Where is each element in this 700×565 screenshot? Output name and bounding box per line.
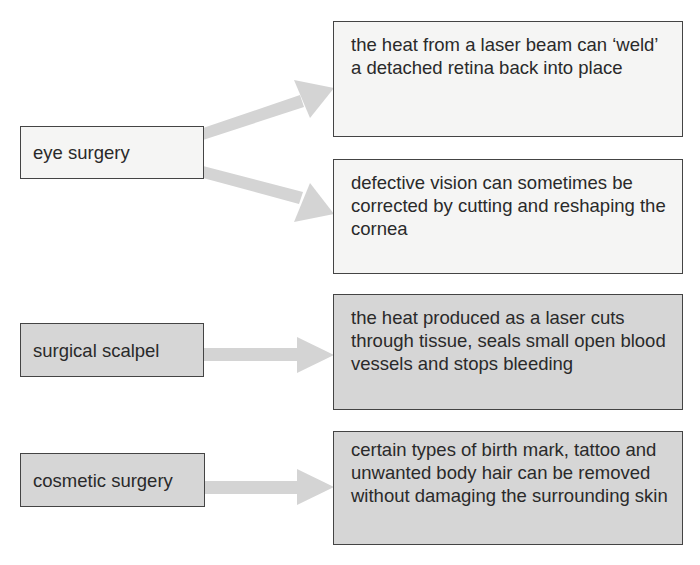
target-text: certain types of birth mark, tattoo and … [351,439,668,506]
source-label: eye surgery [33,141,130,164]
target-text: the heat produced as a laser cuts throug… [351,307,666,374]
target-box-retina: the heat from a laser beam can ‘weld’ a … [333,21,683,137]
source-label: surgical scalpel [33,339,159,362]
target-box-bleeding: the heat produced as a laser cuts throug… [333,294,683,410]
arrow-scalpel-to-bleeding [203,337,334,373]
target-box-cornea: defective vision can sometimes be correc… [333,159,683,274]
arrow-eye-surgery-to-retina [203,80,334,140]
target-text: defective vision can sometimes be correc… [351,172,666,239]
target-text: the heat from a laser beam can ‘weld’ a … [351,34,658,78]
source-box-surgical-scalpel: surgical scalpel [20,323,204,377]
target-box-skin: certain types of birth mark, tattoo and … [333,431,683,545]
arrow-cosmetic-to-skin [203,469,334,505]
source-box-eye-surgery: eye surgery [20,126,204,179]
arrow-eye-surgery-to-cornea [203,166,334,222]
source-label: cosmetic surgery [33,469,173,492]
source-box-cosmetic-surgery: cosmetic surgery [20,453,205,507]
